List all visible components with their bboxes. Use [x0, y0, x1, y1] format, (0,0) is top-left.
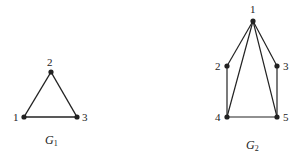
graph-diagram: 1 2 3 G1 1 2 3 4 5 G2	[0, 0, 302, 155]
node-label-2: 2	[215, 60, 221, 72]
edge-1-4	[227, 21, 253, 117]
node-label-4: 4	[215, 111, 221, 123]
node-label-5: 5	[283, 111, 289, 123]
node-1	[250, 18, 255, 23]
node-5	[274, 114, 279, 119]
graph-g1: 1 2 3 G1	[13, 56, 88, 148]
edge-1-5	[253, 21, 277, 117]
node-label-3: 3	[283, 60, 289, 72]
node-label-3: 3	[82, 111, 88, 123]
node-2	[224, 63, 229, 68]
node-3	[274, 63, 279, 68]
graph-g2: 1 2 3 4 5 G2	[215, 3, 289, 153]
node-4	[224, 114, 229, 119]
edge-1-2	[227, 21, 253, 66]
edge-1-2	[24, 72, 51, 117]
graph-label-g2: G2	[246, 138, 259, 153]
node-3	[74, 114, 79, 119]
node-label-1: 1	[13, 111, 19, 123]
node-label-2: 2	[47, 56, 53, 68]
node-1	[21, 114, 26, 119]
graph-label-g1: G1	[45, 133, 58, 148]
edge-1-3	[253, 21, 277, 66]
edge-2-3	[51, 72, 77, 117]
node-label-1: 1	[250, 3, 256, 15]
node-2	[48, 69, 53, 74]
